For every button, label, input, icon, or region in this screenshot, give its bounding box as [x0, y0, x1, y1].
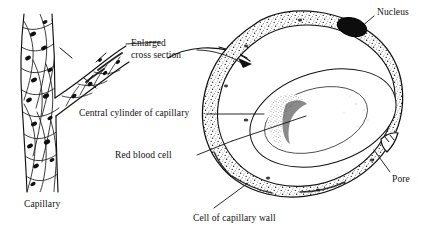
- label-enlarged-cross-section: Enlarged cross section: [131, 38, 201, 61]
- label-nucleus: Nucleus: [377, 7, 409, 18]
- label-capillary: Capillary: [24, 199, 60, 210]
- label-cell-of-capillary-wall: Cell of capillary wall: [193, 213, 276, 224]
- label-pore: Pore: [392, 174, 410, 185]
- capillary-diagram: Enlarged cross section Central cylinder …: [0, 0, 432, 237]
- diagram-artwork: [0, 0, 432, 237]
- label-central-cylinder: Central cylinder of capillary: [79, 108, 189, 119]
- label-red-blood-cell: Red blood cell: [115, 150, 172, 161]
- leader-cell-wall: [214, 183, 248, 208]
- label-enlarged-line1: Enlarged: [131, 38, 166, 48]
- red-blood-cell: [238, 52, 408, 184]
- capillary-tube: [15, 8, 110, 198]
- label-enlarged-line2: cross section: [131, 50, 181, 60]
